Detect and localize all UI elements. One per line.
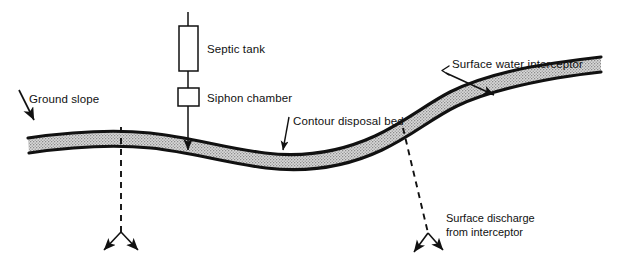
- surface-water-interceptor-label: Surface water interceptor: [452, 58, 583, 70]
- siphon-chamber-body: [178, 88, 199, 106]
- surface-discharge-arrow-right: [428, 233, 443, 250]
- surface-discharge-label-line1: Surface discharge: [446, 212, 535, 224]
- contour-disposal-bed-diagram: Septic tank Siphon chamber Ground slope …: [0, 0, 622, 258]
- septic-tank-label: Septic tank: [207, 43, 265, 55]
- septic-tank-group: Septic tank: [179, 12, 265, 71]
- ground-slope-group: Ground slope: [19, 90, 99, 120]
- contour-disposal-bed-label: Contour disposal bed: [293, 115, 404, 127]
- ground-slope-label: Ground slope: [29, 93, 99, 105]
- siphon-chamber-group: Siphon chamber: [178, 71, 292, 106]
- surface-discharge-dashed-line: [403, 128, 428, 233]
- surface-discharge-arrow-left: [414, 233, 428, 252]
- diagram-canvas: Septic tank Siphon chamber Ground slope …: [0, 0, 622, 258]
- surface-discharge-indicator: Surface discharge from interceptor: [403, 128, 535, 252]
- contour-disposal-bed-leader: [283, 117, 289, 150]
- siphon-chamber-label: Siphon chamber: [207, 92, 292, 104]
- ground-band: [28, 57, 601, 170]
- bed-seepage-arrow-left: [104, 232, 121, 250]
- bed-seepage-arrow-right: [121, 232, 138, 250]
- septic-tank-body: [179, 26, 198, 71]
- surface-discharge-label-line2: from interceptor: [446, 226, 523, 238]
